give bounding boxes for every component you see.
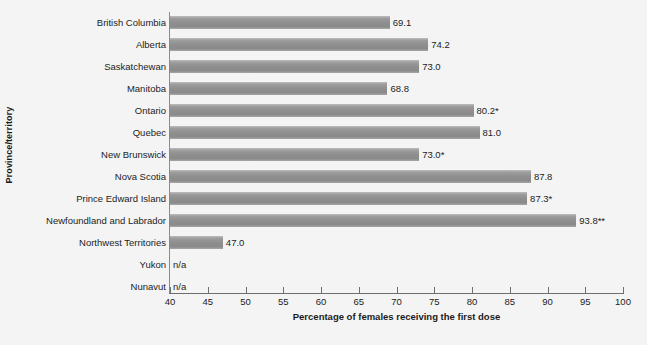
bar <box>170 16 390 29</box>
chart-row: Manitoba68.8 <box>170 78 623 100</box>
chart-row: Nova Scotia87.8 <box>170 166 623 188</box>
chart-row: Newfoundland and Labrador93.8** <box>170 210 623 232</box>
x-axis-tick-label: 50 <box>240 296 251 307</box>
bar <box>170 236 223 249</box>
chart-row: Ontario80.2* <box>170 100 623 122</box>
chart-row: New Brunswick73.0* <box>170 144 623 166</box>
bar <box>170 192 527 205</box>
bar-value-label: 73.0* <box>422 144 444 166</box>
chart-row: Quebec81.0 <box>170 122 623 144</box>
x-axis-tick <box>397 287 398 293</box>
category-label: British Columbia <box>97 12 166 34</box>
bar-value-label: n/a <box>173 254 186 276</box>
bar <box>170 126 480 139</box>
bar-chart: Province/territory British Columbia69.1A… <box>0 0 647 345</box>
x-axis-tick-label: 55 <box>278 296 289 307</box>
bar-value-label: 87.8 <box>534 166 553 188</box>
bar-value-label: 87.3* <box>530 188 552 210</box>
x-axis-tick-label: 45 <box>202 296 213 307</box>
category-label: Quebec <box>133 122 166 144</box>
category-label: Manitoba <box>127 78 166 100</box>
x-axis-tick <box>472 287 473 293</box>
bar-value-label: n/a <box>173 276 186 298</box>
category-label: Alberta <box>136 34 166 56</box>
chart-row: Alberta74.2 <box>170 34 623 56</box>
x-axis-tick-label: 70 <box>391 296 402 307</box>
y-axis-title-label: Province/territory <box>4 107 14 184</box>
x-axis-tick-label: 85 <box>504 296 515 307</box>
x-axis-tick <box>246 287 247 293</box>
chart-row: Yukonn/a <box>170 254 623 276</box>
bar <box>170 170 531 183</box>
category-label: Nunavut <box>131 276 166 298</box>
chart-row: Saskatchewan73.0 <box>170 56 623 78</box>
bar-value-label: 69.1 <box>393 12 412 34</box>
category-label: Northwest Territories <box>79 232 166 254</box>
category-label: Ontario <box>135 100 166 122</box>
category-label: Yukon <box>140 254 166 276</box>
x-axis-tick <box>434 287 435 293</box>
x-axis-tick-label: 90 <box>542 296 553 307</box>
x-axis-tick-label: 65 <box>353 296 364 307</box>
x-axis-tick <box>283 287 284 293</box>
category-label: Saskatchewan <box>104 56 166 78</box>
bar-value-label: 68.8 <box>390 78 409 100</box>
x-axis-title: Percentage of females receiving the firs… <box>170 311 623 322</box>
bar-value-label: 74.2 <box>431 34 450 56</box>
x-axis-tick <box>510 287 511 293</box>
x-axis-tick-label: 60 <box>316 296 327 307</box>
bar <box>170 148 419 161</box>
x-axis-tick-label: 100 <box>615 296 631 307</box>
x-axis-tick <box>321 287 322 293</box>
x-axis-tick <box>359 287 360 293</box>
x-axis-tick <box>208 287 209 293</box>
x-axis-tick-label: 75 <box>429 296 440 307</box>
bar <box>170 82 387 95</box>
x-axis-tick <box>585 287 586 293</box>
chart-row: British Columbia69.1 <box>170 12 623 34</box>
bar <box>170 214 576 227</box>
plot-area: British Columbia69.1Alberta74.2Saskatche… <box>170 12 623 292</box>
category-label: Newfoundland and Labrador <box>46 210 166 232</box>
x-axis-tick <box>623 287 624 293</box>
category-label: Nova Scotia <box>115 166 166 188</box>
bar <box>170 60 419 73</box>
bar-value-label: 47.0 <box>226 232 245 254</box>
x-axis-tick <box>170 287 171 293</box>
bar <box>170 104 474 117</box>
chart-row: Northwest Territories47.0 <box>170 232 623 254</box>
category-label: Prince Edward Island <box>76 188 166 210</box>
chart-row: Prince Edward Island87.3* <box>170 188 623 210</box>
x-axis-tick <box>548 287 549 293</box>
x-axis-tick-label: 95 <box>580 296 591 307</box>
bar-value-label: 81.0 <box>483 122 502 144</box>
y-axis-title: Province/territory <box>0 0 18 290</box>
x-axis-tick-label: 40 <box>165 296 176 307</box>
bar <box>170 38 428 51</box>
bar-value-label: 93.8** <box>579 210 605 232</box>
bar-value-label: 80.2* <box>477 100 499 122</box>
x-axis-tick-label: 80 <box>467 296 478 307</box>
bar-value-label: 73.0 <box>422 56 441 78</box>
category-label: New Brunswick <box>101 144 166 166</box>
